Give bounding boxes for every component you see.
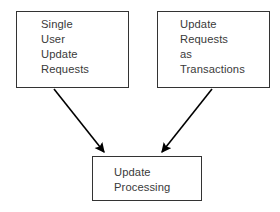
arrow-single-user-to-update-processing [54,89,104,152]
node-label-update-processing: Update Processing [114,165,206,195]
flow-diagram: Single User Update Requests Update Reque… [0,0,280,212]
node-label-update-requests-as-transactions: Update Requests as Transactions [180,17,272,77]
arrow-transactions-to-update-processing [162,89,212,152]
node-label-single-user-update-requests: Single User Update Requests [41,17,127,77]
